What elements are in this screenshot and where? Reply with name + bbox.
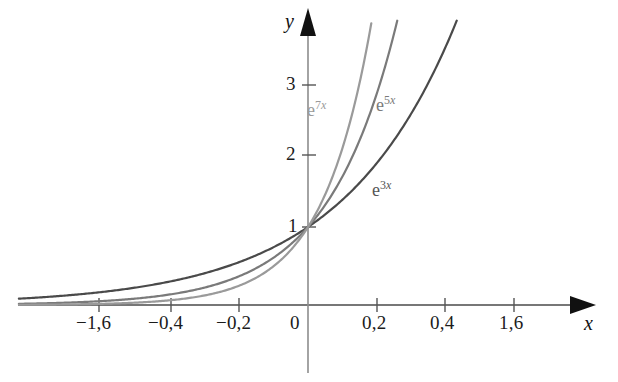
x-tick-label-zero: 0 <box>290 312 300 334</box>
curves-group <box>19 21 457 305</box>
y-tick-label-1: 1 <box>288 215 298 237</box>
y-axis-label: y <box>285 10 294 33</box>
curve-label-e3x: e3x <box>372 178 391 201</box>
x-tick-label-0-2: 0,2 <box>362 312 386 334</box>
y-tick-label-3: 3 <box>286 73 296 95</box>
x-axis-label: x <box>584 312 593 335</box>
curve-label-e5x-variable: x <box>390 93 395 107</box>
x-tick-label-minus-0-2: −0,2 <box>216 312 251 334</box>
curve-label-e7x-base: e <box>307 100 315 120</box>
curve-e3x <box>19 21 457 299</box>
y-tick-label-2: 2 <box>286 143 296 165</box>
curve-label-e7x-variable: x <box>321 98 326 112</box>
x-tick-label-0-4: 0,4 <box>430 312 454 334</box>
curve-label-e3x-base: e <box>372 180 380 200</box>
curve-label-e7x: e7x <box>307 98 326 121</box>
curve-e5x <box>19 21 397 304</box>
x-tick-label-minus-0-4: −0,4 <box>148 312 183 334</box>
y-axis-arrowhead <box>300 8 316 36</box>
curve-label-e5x-base: e <box>376 95 384 115</box>
x-tick-label-minus-1-6: −1,6 <box>76 312 111 334</box>
curve-e7x <box>19 23 371 305</box>
curve-label-e3x-variable: x <box>386 178 391 192</box>
curve-label-e5x: e5x <box>376 93 395 116</box>
x-tick-label-1-6: 1,6 <box>499 312 523 334</box>
exponential-functions-chart: −1,6 −0,4 −0,2 0 0,2 0,4 1,6 1 2 3 x y e… <box>0 0 618 382</box>
